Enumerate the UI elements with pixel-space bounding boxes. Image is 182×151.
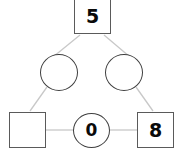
node-top-square-label: 5	[86, 7, 99, 26]
node-bottom-left-square[interactable]	[9, 112, 46, 148]
edge-mid-right-to-bottom-right	[136, 87, 153, 111]
node-mid-left-circle[interactable]	[40, 54, 78, 91]
node-bottom-mid-circle[interactable]: 0	[73, 113, 110, 148]
node-bottom-mid-circle-label: 0	[86, 122, 98, 139]
node-bottom-right-square-label: 8	[149, 121, 162, 140]
edge-mid-left-to-bottom-left	[30, 87, 47, 111]
diagram-canvas: 5 0 8	[0, 0, 182, 151]
node-bottom-right-square[interactable]: 8	[137, 112, 174, 148]
node-mid-right-circle[interactable]	[105, 54, 143, 91]
node-top-square[interactable]: 5	[74, 0, 111, 34]
